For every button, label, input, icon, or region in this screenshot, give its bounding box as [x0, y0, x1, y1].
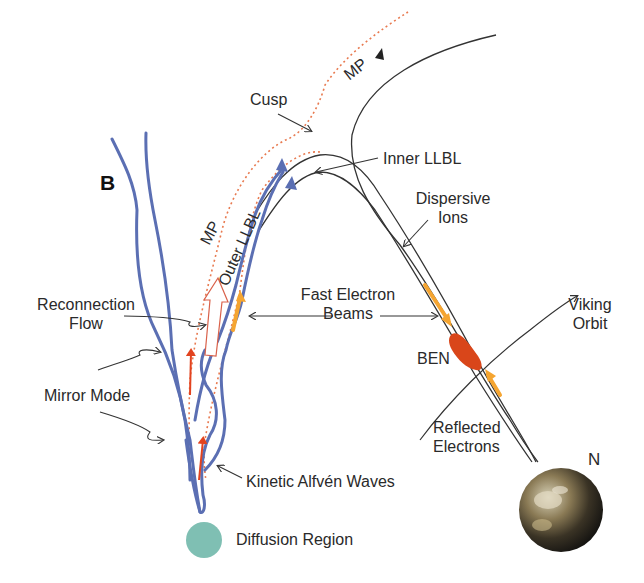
- label-north: N: [588, 450, 600, 469]
- field-direction-arrowhead: [375, 48, 384, 60]
- label-reconnection-flow: Reconnection Flow: [26, 295, 146, 333]
- earth-globe: [519, 468, 603, 552]
- panel-label: B: [100, 173, 115, 192]
- blue-arrowhead-1: [276, 158, 288, 172]
- label-diffusion-region: Diffusion Region: [236, 530, 353, 549]
- label-dispersive-ions: Dispersive Ions: [413, 189, 493, 227]
- label-viking-orbit: Viking Orbit: [560, 295, 620, 333]
- label-kinetic-alfven-waves: Kinetic Alfvén Waves: [246, 472, 395, 491]
- label-inner-llbl: Inner LLBL: [383, 149, 461, 168]
- label-cusp: Cusp: [250, 90, 287, 109]
- blue-arrowhead-2: [285, 176, 297, 190]
- label-reflected-electrons: Reflected Electrons: [433, 418, 501, 456]
- label-mirror-mode: Mirror Mode: [44, 386, 130, 405]
- diffusion-region-circle: [186, 522, 222, 558]
- magnetopause-lines: [189, 12, 408, 480]
- label-ben: BEN: [417, 349, 450, 368]
- label-fast-electron-beams: Fast Electron Beams: [288, 285, 408, 323]
- closed-field-lines: [255, 35, 538, 462]
